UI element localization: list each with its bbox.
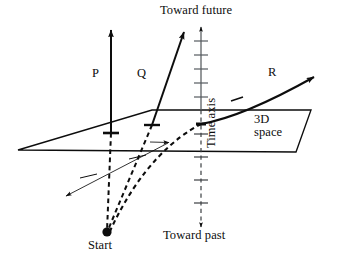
- worldline-p-past-segment: [107, 133, 111, 231]
- space-plane-label-line-1: 3D: [254, 112, 269, 126]
- space-plane-label-line-2: space: [254, 126, 282, 139]
- worldline-q-label: Q: [137, 67, 146, 80]
- spacetime-diagram-figure: Toward future Toward past Start P Q R 3D…: [0, 0, 341, 262]
- worldline-p-label: P: [92, 67, 99, 80]
- worldline-p-group: [103, 30, 119, 231]
- worldline-q-group: [108, 32, 184, 230]
- space-plane-label: 3D space: [254, 113, 282, 139]
- toward-future-label: Toward future: [160, 4, 232, 17]
- diagram-canvas: [0, 0, 341, 262]
- worldline-q-future-segment: [152, 32, 184, 125]
- spatial-axis-tick-1: [80, 174, 97, 178]
- start-label: Start: [88, 239, 112, 252]
- worldline-r-past-segment: [110, 124, 201, 231]
- start-point-dot: [102, 227, 111, 236]
- worldline-r-label: R: [268, 66, 276, 79]
- time-axis-label: Time axis: [205, 98, 218, 148]
- toward-past-label: Toward past: [163, 229, 225, 242]
- worldline-r-direction-tick: [231, 97, 243, 101]
- spatial-axis-arrowhead-up: [150, 142, 169, 143]
- worldline-q-past-segment: [108, 125, 152, 230]
